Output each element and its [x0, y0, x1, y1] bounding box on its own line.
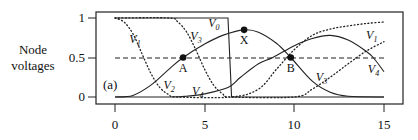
series-label-v3: V3: [316, 70, 327, 86]
panel-label: (a): [103, 77, 117, 92]
x-tick-0: 0: [112, 117, 119, 132]
series-label-v4: V4: [368, 62, 379, 78]
series-label-v2: V2: [163, 78, 174, 94]
series-label-v4: V4: [192, 84, 203, 100]
x-tick-10: 10: [288, 117, 301, 132]
y-axis: 1 0.5 0: [69, 10, 96, 104]
series-v2-line: [115, 30, 384, 97]
point-b-label: B: [287, 61, 295, 75]
y-tick-0: 0: [79, 89, 86, 104]
series-label-v0: V0: [208, 16, 219, 32]
y-tick-0.5: 0.5: [69, 50, 85, 65]
series-label-v3: V3: [190, 29, 201, 45]
y-axis-label-line2: voltages: [11, 58, 54, 73]
x-tick-15: 15: [378, 117, 391, 132]
series-label-v1: V1: [129, 32, 140, 48]
series-v4-line: [115, 35, 384, 97]
y-axis-label-line1: Node: [19, 42, 47, 57]
point-x-label: X: [240, 33, 249, 47]
series-label-v1: V1: [366, 28, 377, 44]
x-tick-5: 5: [202, 117, 209, 132]
y-tick-1: 1: [79, 10, 86, 25]
x-axis: 0 5 10 15: [112, 104, 391, 132]
node-voltage-chart: 1 0.5 0 Node voltages 0 5 10 15 V0V1V3V2…: [0, 0, 418, 140]
point-a-label: A: [179, 61, 188, 75]
